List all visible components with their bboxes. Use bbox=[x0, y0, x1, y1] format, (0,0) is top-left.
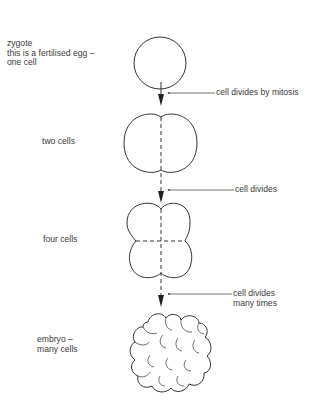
two-cells-shape bbox=[124, 114, 197, 172]
embryo-label-line-2: many cells bbox=[37, 345, 78, 355]
transition-1-label: cell divides by mitosis bbox=[216, 88, 299, 98]
pointer-dot-1 bbox=[168, 92, 170, 94]
transition-3-label: cell divides many times bbox=[233, 289, 277, 308]
arrow-3-head bbox=[158, 295, 164, 307]
four-cells-label: four cells bbox=[43, 235, 77, 245]
arrow-2-head bbox=[158, 191, 164, 203]
transition-2-label: cell divides bbox=[235, 185, 277, 195]
transition-1-label-line-1: cell divides by mitosis bbox=[216, 88, 299, 98]
zygote-cell-shape bbox=[134, 37, 186, 89]
arrow-1-head bbox=[158, 94, 164, 106]
four-cells-shape bbox=[127, 203, 192, 277]
two-cells-label: two cells bbox=[42, 137, 75, 147]
zygote-label-line-3: one cell bbox=[7, 58, 94, 68]
four-cells-label-line-1: four cells bbox=[43, 235, 77, 245]
transition-3-label-line-2: many times bbox=[233, 299, 277, 309]
transition-2-label-line-1: cell divides bbox=[235, 185, 277, 195]
zygote-label: zygote this is a fertilised egg – one ce… bbox=[7, 39, 94, 68]
pointer-dot-2 bbox=[168, 189, 170, 191]
embryo-inner-cells bbox=[135, 318, 204, 386]
pointer-dot-3 bbox=[168, 293, 170, 295]
embryo-label: embryo – many cells bbox=[37, 335, 78, 354]
two-cells-label-line-1: two cells bbox=[42, 137, 75, 147]
